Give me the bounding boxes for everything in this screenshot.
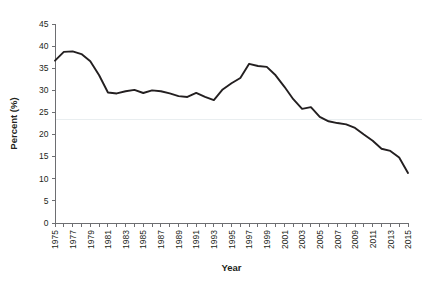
x-tick-label: 1977 xyxy=(68,230,78,249)
x-tick-labels: 1975197719791981198319851987198919911993… xyxy=(50,230,413,249)
y-tick-label: 45 xyxy=(39,19,49,29)
x-tick-label: 1999 xyxy=(262,230,272,249)
x-tick-label: 1989 xyxy=(174,230,184,249)
x-tick-label: 1975 xyxy=(50,230,60,249)
y-tick-label: 10 xyxy=(39,174,49,184)
x-tick-label: 1983 xyxy=(121,230,131,249)
x-tick-label: 1987 xyxy=(156,230,166,249)
x-tick-label: 2001 xyxy=(280,230,290,249)
y-tick-marks xyxy=(52,24,56,223)
x-tick-label: 1985 xyxy=(138,230,148,249)
y-tick-label: 25 xyxy=(39,107,49,117)
x-tick-label: 2003 xyxy=(297,230,307,249)
x-tick-label: 2009 xyxy=(350,230,360,249)
x-tick-label: 2015 xyxy=(403,230,413,249)
x-tick-label: 1993 xyxy=(209,230,219,249)
x-axis: 1975197719791981198319851987198919911993… xyxy=(50,223,413,249)
x-tick-label: 2007 xyxy=(333,230,343,249)
x-tick-label: 2011 xyxy=(368,230,378,249)
x-tick-label: 2005 xyxy=(315,230,325,249)
x-tick-marks xyxy=(55,223,408,227)
x-axis-title: Year xyxy=(221,262,241,273)
y-axis-title: Percent (%) xyxy=(8,97,19,149)
y-tick-labels: 051015202530354045 xyxy=(39,19,49,228)
line-chart: 051015202530354045 197519771979198119831… xyxy=(0,0,432,283)
y-tick-label: 5 xyxy=(44,196,49,206)
y-tick-label: 30 xyxy=(39,85,49,95)
y-tick-label: 35 xyxy=(39,63,49,73)
x-tick-label: 1981 xyxy=(103,230,113,249)
y-axis: 051015202530354045 xyxy=(39,19,55,228)
data-series-line xyxy=(55,51,408,173)
y-tick-label: 15 xyxy=(39,151,49,161)
y-tick-label: 40 xyxy=(39,41,49,51)
x-tick-label: 1997 xyxy=(244,230,254,249)
x-tick-label: 1979 xyxy=(86,230,96,249)
x-tick-label: 1991 xyxy=(191,230,201,249)
chart-container: 051015202530354045 197519771979198119831… xyxy=(0,0,432,283)
x-tick-label: 2013 xyxy=(386,230,396,249)
x-tick-label: 1995 xyxy=(227,230,237,249)
y-tick-label: 20 xyxy=(39,129,49,139)
y-tick-label: 0 xyxy=(44,218,49,228)
